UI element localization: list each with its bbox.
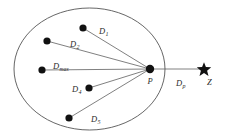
label-point-p: P <box>148 77 153 86</box>
label-dmax: Dmax <box>53 62 69 71</box>
interior-point-dmax <box>38 66 45 73</box>
label-d1: D1 <box>99 27 108 36</box>
label-point-z: Z <box>207 78 212 87</box>
label-d5: D5 <box>91 115 100 124</box>
star-marker-z <box>197 62 211 76</box>
distance-line-d1 <box>83 28 150 69</box>
label-d2: D2 <box>70 40 79 49</box>
label-dp: Dp <box>176 79 185 88</box>
diagram-canvas <box>0 0 226 138</box>
distance-line-d4 <box>89 69 150 88</box>
interior-point-d5 <box>65 114 72 121</box>
distance-diagram-figure: D1 D2 Dmax D4 D5 Dp P Z <box>0 0 226 138</box>
interior-point-d1 <box>79 24 86 31</box>
interior-point-d4 <box>85 84 92 91</box>
label-d4: D4 <box>72 85 81 94</box>
boundary-point-p <box>146 65 154 73</box>
interior-point-d2 <box>43 37 50 44</box>
